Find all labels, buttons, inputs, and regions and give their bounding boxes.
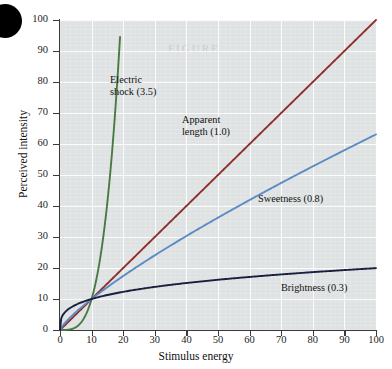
y-tick-label: 20 (8, 261, 48, 272)
curve-brightness (60, 268, 376, 330)
y-tick-mark (53, 206, 59, 207)
series-label-electric-shock: Electric shock (3.5) (110, 74, 156, 97)
y-tick-mark (53, 51, 59, 52)
y-tick-label: 90 (8, 44, 48, 55)
series-label-brightness: Brightness (0.3) (281, 282, 347, 294)
figure-canvas: FIGURE 0102030405060708090100 0102030405… (0, 0, 392, 369)
y-tick-mark (53, 82, 59, 83)
x-axis-title: Stimulus energy (0, 350, 392, 362)
y-tick-label: 30 (8, 230, 48, 241)
y-tick-mark (53, 268, 59, 269)
series-label-apparent-length: Apparent length (1.0) (182, 114, 230, 137)
y-tick-mark (53, 20, 59, 21)
series-label-sweetness: Sweetness (0.8) (258, 193, 323, 205)
y-tick-label: 10 (8, 292, 48, 303)
y-tick-label: 0 (8, 323, 48, 334)
y-tick-label: 100 (8, 13, 48, 24)
y-tick-mark (53, 175, 59, 176)
y-axis-title: Perceived intensity (17, 79, 29, 229)
y-tick-mark (53, 299, 59, 300)
gridline-vertical (376, 20, 377, 330)
y-tick-mark (53, 113, 59, 114)
y-tick-mark (53, 330, 59, 331)
x-tick-label: 100 (356, 334, 392, 345)
curve-sweetness (60, 134, 376, 330)
y-tick-mark (53, 237, 59, 238)
y-tick-mark (53, 144, 59, 145)
